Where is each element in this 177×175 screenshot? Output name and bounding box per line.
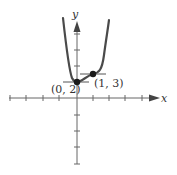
point-label-0-2: (0, 2)	[51, 83, 81, 96]
y-axis-label: y	[71, 8, 79, 21]
function-graph: (0, 2) (1, 3) x y	[0, 0, 177, 175]
point-label-1-3: (1, 3)	[94, 77, 124, 90]
x-axis	[9, 95, 160, 102]
function-curve	[63, 18, 109, 82]
x-axis-label: x	[161, 92, 168, 105]
x-axis-arrow-icon	[149, 95, 160, 102]
y-axis-arrow-icon	[74, 21, 81, 32]
